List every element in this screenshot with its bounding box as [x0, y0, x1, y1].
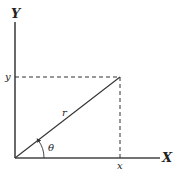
- x-axis-label: X: [161, 150, 173, 165]
- radius-vector: [15, 77, 120, 158]
- angle-label: θ: [48, 142, 54, 153]
- coordinate-diagram: Y X y x r θ: [0, 0, 180, 173]
- y-projection-label: y: [4, 71, 11, 82]
- y-axis-label: Y: [11, 6, 22, 21]
- x-projection-label: x: [117, 160, 123, 171]
- angle-arc: [38, 140, 44, 158]
- radius-label: r: [62, 107, 68, 118]
